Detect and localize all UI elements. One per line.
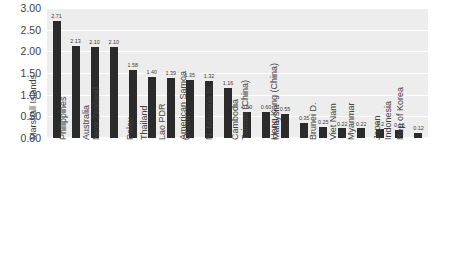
bar-value-label: 1.16 (223, 81, 234, 86)
category-slot: Philippines (66, 140, 85, 255)
bar (110, 47, 118, 138)
x-axis-category-label: Thailand (138, 105, 148, 140)
category-slot: Australia (85, 140, 104, 255)
bar-slot: 2.10 (104, 8, 123, 138)
x-axis-category-label: Taiwan (China) (240, 80, 250, 140)
bar (319, 127, 327, 138)
category-slot: N. Mariana Is. (218, 140, 237, 255)
x-axis-category-label: Cambodia (230, 99, 240, 140)
x-axis-category-label: Australia (81, 105, 91, 140)
category-slot: Taiwan (China) (257, 140, 276, 255)
bar (300, 123, 308, 138)
bar-value-label: 2.13 (70, 39, 81, 44)
bar-value-label: 0.12 (413, 126, 424, 131)
category-slot: American Samoa (199, 140, 218, 255)
x-axis-category-label: Brunei D. (308, 102, 318, 140)
bar (148, 77, 156, 138)
bar-value-label: 1.32 (204, 74, 215, 79)
category-slot: Palau (123, 140, 142, 255)
category-slot: Brunei D. (314, 140, 333, 255)
bar-slot: 0.12 (409, 8, 428, 138)
x-axis-category-label: Indonesia (384, 101, 394, 140)
bar-value-label: 2.10 (89, 40, 100, 45)
bar (281, 114, 289, 138)
bar (338, 128, 346, 138)
x-axis-category-label: Rep of Korea (396, 87, 406, 140)
x-axis-category-label: American Samoa (178, 71, 188, 140)
category-slot: Lao PDR (161, 140, 180, 255)
y-axis-tick-label: 2.50 (0, 24, 41, 36)
x-axis-category-label: Philippines (58, 96, 68, 140)
bar-value-label: 2.71 (51, 14, 62, 19)
category-slot: Japan (371, 140, 390, 255)
x-axis-category-label: Palau (125, 117, 135, 140)
x-axis-category-label: New Zealand (91, 87, 101, 140)
bar-value-label: 1.40 (147, 70, 158, 75)
category-slot: Rep of Korea (409, 140, 428, 255)
category-slot: Thailand (142, 140, 161, 255)
x-axis-category-label: N. Mariana Is. (204, 84, 214, 140)
bar-value-label: 1.39 (166, 71, 177, 76)
category-axis: Marshall IslandsPhilippinesAustraliaNew … (47, 140, 428, 255)
category-slot: New Zealand (104, 140, 123, 255)
bar-value-label: 0.55 (280, 107, 291, 112)
category-slot: Malaysia (276, 140, 295, 255)
bar (414, 133, 422, 138)
category-slot: Marshall Islands (47, 140, 66, 255)
category-slot: Hong Kong (China) (295, 140, 314, 255)
category-slot: Cambodia (237, 140, 256, 255)
category-slot: Viet Nam (333, 140, 352, 255)
category-slot: Myanmar (352, 140, 371, 255)
x-axis-category-label: Myanmar (347, 102, 357, 140)
category-slot: Guam (180, 140, 199, 255)
x-axis-category-label: Hong Kong (China) (270, 63, 280, 140)
bar (72, 46, 80, 138)
x-axis-category-label: Marshall Islands (28, 75, 38, 140)
x-axis-category-label: Japan (372, 115, 382, 140)
x-axis-category-label: Lao PDR (157, 103, 167, 140)
bar (167, 78, 175, 138)
bar-value-label: 1.58 (127, 63, 138, 68)
y-axis-tick-label: 3.00 (0, 2, 41, 14)
bar-chart: 0.000.501.001.502.002.503.00 2.712.132.1… (0, 0, 451, 257)
bar (357, 128, 365, 138)
y-axis-tick-label: 2.00 (0, 45, 41, 57)
x-axis-category-label: Viet Nam (328, 103, 338, 140)
bar-value-label: 2.10 (108, 40, 119, 45)
bar-value-label: 0.22 (356, 122, 367, 127)
category-slot: Indonesia (390, 140, 409, 255)
